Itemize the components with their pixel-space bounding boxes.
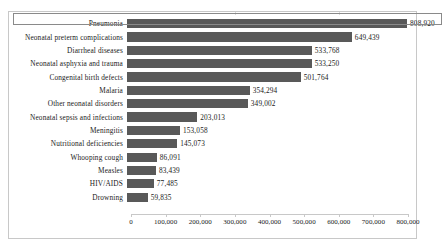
bar-value-label: 203,013 [200,113,225,122]
bar-value-label: 649,439 [355,33,380,42]
bar-plot-area: 59,835 [127,190,416,203]
bar[interactable] [127,193,148,202]
bar[interactable] [127,86,250,95]
bar-plot-area: 145,073 [127,137,416,150]
table-row[interactable]: HIV/AIDS77,485 [9,177,416,190]
bar-value-label: 86,091 [160,153,181,162]
top-tick-marks [9,12,416,16]
x-axis-tick-label: 200,000 [189,218,212,227]
bar-category-label: Congenital birth defects [9,73,127,82]
bar-category-label: Whooping cough [9,153,127,162]
x-axis-tick [200,214,201,217]
bar-value-label: 83,439 [159,166,180,175]
table-row[interactable]: Malaria354,294 [9,84,416,97]
bar[interactable] [127,59,312,68]
x-axis-tick-label: 600,000 [327,218,350,227]
bar-plot-area: 501,764 [127,70,416,83]
bar-category-label: Pneumonia [9,19,127,28]
table-row[interactable]: Neonatal preterm complications649,439 [9,30,416,43]
x-axis-tick [408,214,409,217]
bar-category-label: Neonatal preterm complications [9,33,127,42]
bar-category-label: Malaria [9,86,127,95]
x-axis-tick [373,214,374,217]
bar-plot-area: 349,002 [127,97,416,110]
bar-category-label: Nutritional deficiencies [9,139,127,148]
bar-value-label: 145,073 [180,139,205,148]
bar[interactable] [127,32,352,41]
bar-value-label: 501,764 [304,73,329,82]
bar-plot-area: 808,920 [127,17,435,30]
table-row[interactable]: Neonatal sepsis and infections203,013 [9,110,416,123]
table-row[interactable]: Nutritional deficiencies145,073 [9,137,416,150]
bar-value-label: 77,485 [157,179,178,188]
table-row[interactable]: Neonatal asphyxia and trauma533,250 [9,57,416,70]
x-axis-tick-label: 100,000 [154,218,177,227]
table-row[interactable]: Whooping cough86,091 [9,150,416,163]
bar-plot-area: 203,013 [127,110,416,123]
chart-container: Pneumonia808,920Neonatal preterm complic… [8,11,417,239]
bar-plot-area: 83,439 [127,164,416,177]
table-row[interactable]: Diarrheal diseases533,768 [9,44,416,57]
x-axis-tick [339,214,340,217]
bar[interactable] [127,112,197,121]
bar-category-label: Drowning [9,193,127,202]
bar-plot-area: 533,250 [127,57,416,70]
bar-plot-area: 86,091 [127,150,416,163]
x-axis-tick [131,214,132,217]
bar-value-label: 349,002 [251,99,276,108]
top-tick [339,12,340,15]
bar-category-label: Neonatal asphyxia and trauma [9,59,127,68]
x-axis-tick-label: 400,000 [258,218,281,227]
top-tick [235,12,236,15]
table-row[interactable]: Other neonatal disorders349,002 [9,97,416,110]
bar-category-label: Meningitis [9,126,127,135]
bar-value-label: 533,768 [315,46,340,55]
table-row[interactable]: Drowning59,835 [9,190,416,203]
bar-category-label: HIV/AIDS [9,179,127,188]
x-axis-tick-label: 800,000 [396,218,419,227]
table-row[interactable]: Meningitis153,058 [9,124,416,137]
bar[interactable] [127,126,180,135]
bar[interactable] [127,139,177,148]
bar-category-label: Neonatal sepsis and infections [9,113,127,122]
x-axis-tick-label: 0 [129,218,133,227]
x-axis-tick-label: 300,000 [223,218,246,227]
bar[interactable] [127,153,157,162]
x-axis-tick [304,214,305,217]
table-row[interactable]: Pneumonia808,920 [9,17,416,30]
x-axis-tick [270,214,271,217]
x-axis-tick-label: 700,000 [362,218,385,227]
bar[interactable] [127,19,407,28]
table-row[interactable]: Congenital birth defects501,764 [9,70,416,83]
bar-rows: Pneumonia808,920Neonatal preterm complic… [9,17,416,204]
x-axis-tick-label: 500,000 [293,218,316,227]
table-row[interactable]: Measles83,439 [9,164,416,177]
bar-value-label: 808,920 [410,19,435,28]
bar-category-label: Other neonatal disorders [9,99,127,108]
bar-value-label: 153,058 [183,126,208,135]
bar[interactable] [127,46,312,55]
bar[interactable] [127,166,156,175]
bar-plot-area: 649,439 [127,30,416,43]
bar-value-label: 533,250 [315,59,340,68]
bar-category-label: Measles [9,166,127,175]
bar-value-label: 59,835 [151,193,172,202]
bar-category-label: Diarrheal diseases [9,46,127,55]
bar-plot-area: 354,294 [127,84,416,97]
bar[interactable] [127,179,154,188]
x-axis-tick [235,214,236,217]
bar-plot-area: 77,485 [127,177,416,190]
bar-plot-area: 153,058 [127,124,416,137]
bar[interactable] [127,72,301,81]
x-axis: 0100,000200,000300,000400,000500,000600,… [9,214,416,232]
x-axis-tick [166,214,167,217]
bar[interactable] [127,99,248,108]
bar-value-label: 354,294 [253,86,278,95]
bar-plot-area: 533,768 [127,44,416,57]
